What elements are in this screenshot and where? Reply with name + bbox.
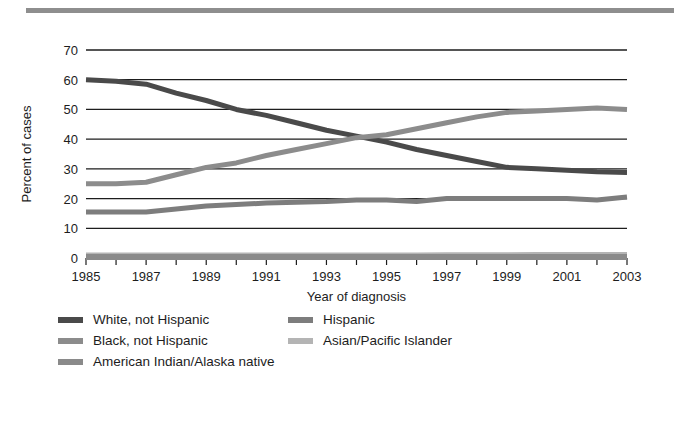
x-axis-tick-label: 1997 bbox=[432, 269, 461, 284]
chart-legend: White, not HispanicHispanicBlack, not Hi… bbox=[58, 309, 618, 372]
legend-item-label: Black, not Hispanic bbox=[93, 330, 208, 351]
legend-item-label: Hispanic bbox=[323, 309, 375, 330]
legend-swatch-icon bbox=[58, 338, 83, 344]
series-line-1 bbox=[86, 108, 627, 184]
legend-item-label: White, not Hispanic bbox=[93, 309, 209, 330]
y-axis-tick-label: 50 bbox=[64, 102, 78, 117]
y-axis-tick-label: 10 bbox=[64, 221, 78, 236]
x-axis-tick-label: 2001 bbox=[552, 269, 581, 284]
x-axis-tick-label: 1987 bbox=[132, 269, 161, 284]
legend-item[interactable]: Asian/Pacific Islander bbox=[288, 330, 588, 351]
x-axis-tick-label: 2003 bbox=[613, 269, 642, 284]
x-axis-tick-label: 1993 bbox=[312, 269, 341, 284]
legend-row: White, not HispanicHispanic bbox=[58, 309, 618, 330]
y-axis-tick-label: 60 bbox=[64, 73, 78, 88]
legend-row: Black, not HispanicAsian/Pacific Islande… bbox=[58, 330, 618, 351]
y-axis-tick-label: 40 bbox=[64, 132, 78, 147]
figure-container: 0102030405060701985198719891991199319951… bbox=[0, 0, 683, 424]
legend-item[interactable]: American Indian/Alaska native bbox=[58, 351, 288, 372]
y-axis-title: Percent of cases bbox=[19, 105, 34, 202]
y-axis-tick-label: 70 bbox=[64, 43, 78, 58]
legend-swatch-icon bbox=[58, 317, 83, 323]
legend-item[interactable]: Hispanic bbox=[288, 309, 588, 330]
x-axis-tick-label: 1995 bbox=[372, 269, 401, 284]
x-axis-tick-label: 1999 bbox=[492, 269, 521, 284]
x-axis-tick-label: 1989 bbox=[192, 269, 221, 284]
legend-row: American Indian/Alaska native bbox=[58, 351, 618, 372]
legend-swatch-icon bbox=[58, 359, 83, 365]
y-axis-tick-label: 20 bbox=[64, 192, 78, 207]
legend-item-label: American Indian/Alaska native bbox=[93, 351, 275, 372]
legend-item-label: Asian/Pacific Islander bbox=[323, 330, 452, 351]
legend-swatch-icon bbox=[288, 317, 313, 323]
series-line-0 bbox=[86, 80, 627, 173]
legend-swatch-icon bbox=[288, 338, 313, 344]
y-axis-tick-label: 0 bbox=[71, 251, 78, 266]
x-axis-title: Year of diagnosis bbox=[307, 289, 407, 304]
x-axis-tick-label: 1991 bbox=[252, 269, 281, 284]
legend-item[interactable]: Black, not Hispanic bbox=[58, 330, 288, 351]
series-line-2 bbox=[86, 197, 627, 212]
y-axis-tick-label: 30 bbox=[64, 162, 78, 177]
legend-item[interactable]: White, not Hispanic bbox=[58, 309, 288, 330]
x-axis-tick-label: 1985 bbox=[72, 269, 101, 284]
